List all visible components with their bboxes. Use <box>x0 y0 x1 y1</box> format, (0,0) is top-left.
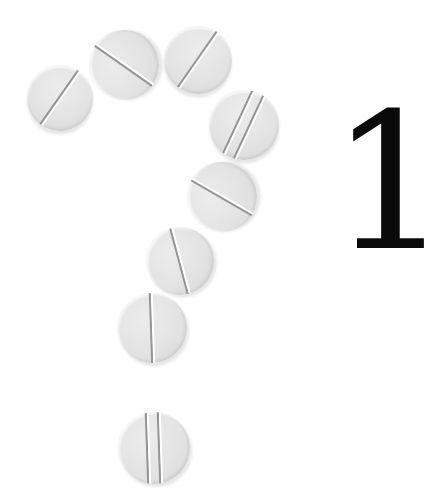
score-line <box>168 221 193 301</box>
numeral-one: 1 <box>330 88 428 278</box>
score-line <box>144 411 151 485</box>
score-line <box>185 174 260 219</box>
illustration: 1 <box>0 0 428 488</box>
pill-icon <box>138 219 221 302</box>
score-line <box>149 292 156 364</box>
pill-icon <box>116 292 188 364</box>
score-line <box>36 64 85 131</box>
score-line <box>173 25 223 94</box>
score-line <box>88 39 159 90</box>
score-line <box>156 411 163 485</box>
pill-icon <box>117 411 191 485</box>
pill-icon <box>197 78 290 171</box>
